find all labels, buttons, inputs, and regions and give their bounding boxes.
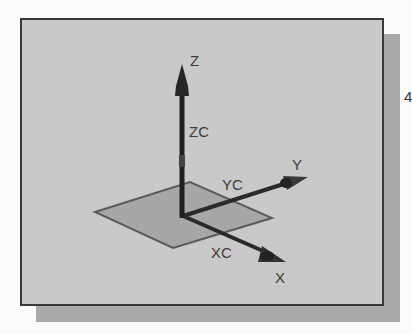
y-axis-label: Y [292,156,302,173]
z-axis-label: Z [190,52,199,69]
x-axis-label: X [275,269,285,286]
yc-axis-label: YC [222,176,243,193]
zc-axis-label: ZC [189,123,209,140]
xc-axis-label: XC [211,244,232,261]
cropped-step-number: 4 [404,88,412,105]
